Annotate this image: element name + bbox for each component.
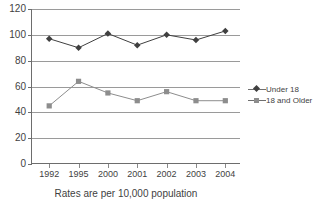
x-tick-label: 2002: [157, 169, 177, 179]
x-tick-mark: [108, 164, 109, 168]
legend-item-18-and-older: 18 and Older: [248, 95, 312, 106]
data-point-square: [76, 79, 81, 84]
y-tick-label: 80: [15, 56, 26, 66]
y-tick-mark: [28, 164, 32, 165]
y-tick-label: 0: [20, 159, 26, 169]
data-point-diamond: [193, 37, 200, 44]
x-tick-mark: [225, 164, 226, 168]
x-tick-label: 1995: [69, 169, 89, 179]
x-tick-mark: [49, 164, 50, 168]
data-point-square: [105, 90, 110, 95]
series-1: [46, 28, 229, 51]
legend-label-18-and-older: 18 and Older: [266, 95, 312, 106]
series-2: [47, 79, 228, 109]
y-tick-label: 100: [9, 30, 26, 40]
data-point-diamond: [134, 42, 141, 49]
plot-area: 020406080100120 199219952000200120022003…: [31, 9, 240, 164]
x-tick-label: 2001: [127, 169, 147, 179]
y-tick-label: 40: [15, 107, 26, 117]
x-tick-label: 1992: [39, 169, 59, 179]
legend-label-under-18: Under 18: [266, 84, 299, 95]
data-point-square: [135, 98, 140, 103]
chart-legend: Under 18 18 and Older: [248, 84, 312, 106]
x-tick-mark: [137, 164, 138, 168]
data-point-square: [223, 98, 228, 103]
data-point-square: [193, 98, 198, 103]
data-point-diamond: [75, 44, 82, 51]
data-point-diamond: [105, 30, 112, 37]
x-tick-mark: [79, 164, 80, 168]
x-tick-mark: [196, 164, 197, 168]
x-tick-label: 2004: [215, 169, 235, 179]
legend-item-under-18: Under 18: [248, 84, 312, 95]
line-chart: 020406080100120 199219952000200120022003…: [0, 0, 316, 207]
chart-caption: Rates are per 10,000 population: [0, 188, 252, 200]
y-tick-label: 60: [15, 82, 26, 92]
data-point-diamond: [163, 32, 170, 39]
data-point-diamond: [46, 35, 53, 42]
y-tick-label: 120: [9, 4, 26, 14]
y-tick-label: 20: [15, 133, 26, 143]
square-marker-icon: [248, 95, 266, 106]
data-point-square: [164, 89, 169, 94]
x-tick-mark: [167, 164, 168, 168]
x-tick-label: 2003: [186, 169, 206, 179]
diamond-marker-icon: [248, 84, 266, 95]
data-point-square: [47, 103, 52, 108]
data-point-diamond: [222, 28, 229, 35]
series-layer: [31, 9, 240, 164]
x-tick-label: 2000: [98, 169, 118, 179]
